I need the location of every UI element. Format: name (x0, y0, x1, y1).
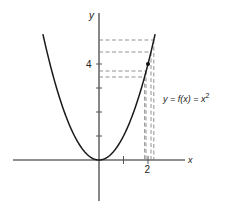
x-axis-label: x (187, 155, 193, 165)
point-marker (146, 62, 150, 66)
x-tick-label-2: 2 (145, 164, 151, 175)
equation-exponent: 2 (206, 92, 210, 99)
curve-equation-label: y = f(x) = x2 (162, 92, 210, 104)
y-axis-label: y (88, 10, 95, 21)
equation-text: y = f(x) = x (162, 94, 206, 104)
y-tick-label-4: 4 (86, 59, 92, 70)
parabola-diagram: y x 4 2 y = f(x) = x2 (0, 0, 227, 209)
